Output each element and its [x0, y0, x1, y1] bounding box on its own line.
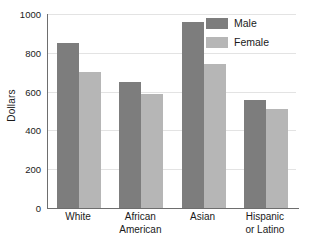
y-axis-tick-labels: 10008006004002000 [18, 8, 44, 208]
legend: Male Female [206, 17, 269, 48]
legend-label-female: Female [234, 36, 269, 48]
bar [266, 109, 288, 208]
legend-item-female: Female [206, 36, 269, 48]
x-axis-category-label: AfricanAmerican [119, 211, 161, 236]
legend-label-male: Male [234, 17, 257, 29]
x-axis-category-line: Hispanic [245, 211, 284, 224]
bar [57, 43, 79, 208]
bar [204, 64, 226, 208]
legend-item-male: Male [206, 17, 269, 29]
x-axis-category-label: Asian [190, 211, 215, 224]
x-axis-line [47, 208, 299, 209]
bar [119, 82, 141, 208]
x-axis-category-line: Asian [190, 211, 215, 224]
y-axis-tick-200: 200 [25, 164, 41, 175]
x-axis-category-label: White [65, 211, 91, 224]
bar-group [57, 14, 101, 208]
legend-swatch-female-icon [206, 37, 228, 48]
y-axis-tick-800: 800 [25, 47, 41, 58]
x-axis-category-line: White [65, 211, 91, 224]
y-axis-tick-1000: 1000 [20, 9, 41, 20]
bar [244, 100, 266, 208]
y-axis-title-text: Dollars [6, 89, 17, 122]
x-axis-tick-labels: WhiteAfricanAmericanAsianHispanicor Lati… [47, 211, 296, 247]
legend-swatch-male-icon [206, 18, 228, 29]
bar-chart: Dollars 10008006004002000 WhiteAfricanAm… [0, 0, 310, 248]
x-axis-category-label: Hispanicor Latino [245, 211, 284, 236]
y-axis-tick-0: 0 [36, 203, 41, 214]
y-axis-tick-600: 600 [25, 86, 41, 97]
x-axis-category-line: or Latino [245, 224, 284, 237]
bar [141, 94, 163, 208]
bar [79, 72, 101, 208]
y-axis-tick-400: 400 [25, 125, 41, 136]
bar [182, 22, 204, 208]
x-axis-category-line: American [119, 224, 161, 237]
x-axis-category-line: African [119, 211, 161, 224]
bar-group [119, 14, 163, 208]
